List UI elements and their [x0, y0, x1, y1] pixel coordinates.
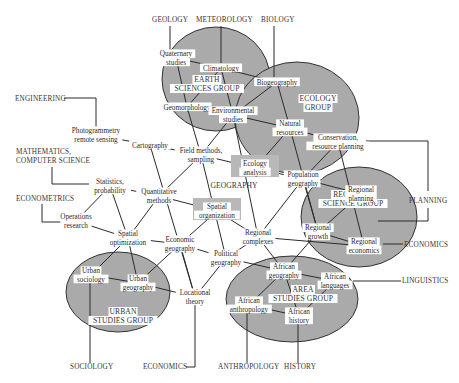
- svg-text:planning: planning: [348, 195, 374, 203]
- discipline-label-mathematics: MATHEMATICS,: [16, 148, 71, 156]
- svg-text:geography: geography: [123, 284, 154, 292]
- topic-node-fieldmethods: Field methods,sampling: [175, 146, 228, 163]
- svg-text:Climatology: Climatology: [203, 65, 239, 73]
- topic-node-natural: Naturalresources: [273, 119, 308, 136]
- svg-text:EARTH: EARTH: [194, 75, 220, 84]
- svg-text:sampling: sampling: [188, 156, 215, 164]
- topic-node-politicalgeo: Politicalgeography: [209, 249, 244, 266]
- svg-text:history: history: [289, 317, 309, 325]
- discipline-label-economics: ECONOMICS: [143, 363, 187, 371]
- svg-text:Regional: Regional: [348, 186, 374, 194]
- svg-text:African: African: [238, 297, 260, 305]
- topic-node-regionalplanning: Regionalplanning: [345, 185, 376, 202]
- svg-text:Environmental: Environmental: [212, 107, 255, 115]
- svg-text:geography: geography: [269, 272, 300, 280]
- svg-text:STUDIES GROUP: STUDIES GROUP: [93, 316, 153, 325]
- svg-text:Photogrammetry: Photogrammetry: [72, 127, 121, 135]
- topic-node-economicgeo: Economicgeography: [163, 235, 198, 252]
- topic-node-ecologyanalysis: Ecologyanalysis: [239, 159, 270, 176]
- discipline-label-planning: PLANNING: [409, 197, 447, 205]
- svg-text:anthropology: anthropology: [230, 306, 269, 314]
- svg-text:studies: studies: [223, 116, 243, 124]
- svg-text:Operations: Operations: [60, 213, 92, 221]
- svg-text:Natural: Natural: [279, 120, 301, 128]
- svg-text:languages: languages: [321, 282, 350, 290]
- svg-text:analysis: analysis: [243, 169, 266, 177]
- topic-node-africanlang: Africanlanguages: [318, 272, 353, 289]
- svg-text:African: African: [273, 263, 295, 271]
- svg-text:African: African: [324, 273, 346, 281]
- svg-text:economics: economics: [349, 247, 380, 255]
- svg-text:Biogeography: Biogeography: [257, 79, 298, 87]
- topic-node-quantitative: Quantitativemethods: [136, 187, 182, 204]
- svg-text:studies: studies: [166, 59, 186, 67]
- topic-node-geomorphology: Geomorphology: [162, 103, 211, 112]
- svg-text:probability: probability: [94, 187, 126, 195]
- svg-text:Conservation,: Conservation,: [318, 134, 358, 142]
- discipline-label-anthropology: ANTHROPOLOGY: [218, 363, 280, 371]
- svg-text:Locational: Locational: [180, 289, 211, 297]
- discipline-label-biology: BIOLOGY: [261, 16, 295, 24]
- topic-node-regionalcomplexes: Regionalcomplexes: [241, 228, 276, 245]
- svg-text:Economic: Economic: [165, 236, 194, 244]
- svg-text:SCIENCES GROUP: SCIENCES GROUP: [175, 84, 240, 93]
- svg-text:theory: theory: [186, 298, 205, 306]
- svg-text:Geomorphology: Geomorphology: [163, 104, 211, 112]
- svg-text:methods: methods: [147, 197, 172, 205]
- discipline-label-economics: ECONOMICS: [404, 241, 448, 249]
- discipline-connector: [64, 98, 96, 127]
- svg-text:Spatial: Spatial: [207, 203, 227, 211]
- discipline-connector: [186, 305, 195, 367]
- discipline-relationship-diagram: GEOGRAPHY EARTHSCIENCES GROUPECOLOGYGROU…: [0, 0, 459, 383]
- svg-text:sociology: sociology: [77, 276, 105, 284]
- svg-text:resource planning: resource planning: [312, 143, 364, 151]
- svg-text:Political: Political: [214, 250, 238, 258]
- svg-text:African: African: [288, 308, 310, 316]
- svg-text:complexes: complexes: [243, 238, 274, 246]
- svg-text:geography: geography: [165, 245, 196, 253]
- topic-node-africanhistory: Africanhistory: [285, 307, 313, 324]
- svg-text:ECOLOGY: ECOLOGY: [300, 94, 337, 103]
- topic-node-africangeo: Africangeography: [267, 262, 302, 279]
- svg-text:Urban: Urban: [129, 275, 147, 283]
- svg-text:Quantitative: Quantitative: [141, 188, 177, 196]
- discipline-label-computer-science: COMPUTER SCIENCE: [16, 157, 90, 165]
- discipline-label-geology: GEOLOGY: [152, 16, 189, 24]
- discipline-label-history: HISTORY: [284, 363, 317, 371]
- topic-node-quaternary: Quaternarystudies: [157, 49, 196, 66]
- svg-text:remote sensing: remote sensing: [74, 136, 118, 144]
- topic-node-population: Populationgeography: [284, 170, 323, 187]
- svg-text:STUDIES GROUP: STUDIES GROUP: [273, 294, 333, 303]
- topic-node-spatialopt: Spatialoptimization: [105, 229, 151, 246]
- svg-text:geography: geography: [211, 259, 242, 267]
- svg-text:URBAN: URBAN: [109, 307, 136, 316]
- topic-node-climatology: Climatology: [200, 64, 242, 73]
- svg-text:Statistics,: Statistics,: [96, 178, 124, 186]
- link-population-regionalcomplexes: [258, 179, 303, 237]
- discipline-label-engineering: ENGINEERING: [15, 95, 66, 103]
- svg-text:AREA: AREA: [292, 285, 313, 294]
- topic-node-statistics: Statistics,probability: [89, 177, 131, 194]
- svg-text:Regional: Regional: [305, 224, 331, 232]
- svg-text:resources: resources: [276, 129, 303, 137]
- svg-text:GROUP: GROUP: [305, 103, 331, 112]
- topic-node-biogeography: Biogeography: [254, 78, 300, 87]
- svg-text:Quaternary: Quaternary: [160, 50, 193, 58]
- svg-text:Regional: Regional: [245, 229, 271, 237]
- svg-text:research: research: [64, 222, 88, 230]
- svg-text:Ecology: Ecology: [243, 160, 267, 168]
- svg-text:Urban: Urban: [82, 267, 100, 275]
- geography-label: GEOGRAPHY: [211, 181, 258, 190]
- svg-text:geography: geography: [288, 180, 319, 188]
- svg-text:Cartography: Cartography: [132, 142, 168, 150]
- group-label-ecology: ECOLOGYGROUP: [299, 94, 338, 112]
- svg-text:Spatial: Spatial: [118, 230, 138, 238]
- topic-node-regionalgrowth: Regionalgrowth: [302, 223, 333, 240]
- topic-node-operations: Operationsresearch: [57, 212, 96, 229]
- topic-node-conservation: Conservation,resource planning: [306, 133, 369, 150]
- svg-text:optimization: optimization: [110, 239, 147, 247]
- topic-node-regionaleconomics: Regionaleconomics: [347, 237, 382, 254]
- svg-text:growth: growth: [308, 233, 329, 241]
- discipline-label-sociology: SOCIOLOGY: [70, 363, 114, 371]
- svg-text:Field methods,: Field methods,: [180, 147, 223, 155]
